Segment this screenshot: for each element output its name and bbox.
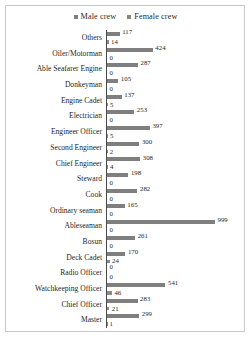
bar-rect [107,103,108,107]
category-label: Engine Cadet [0,93,106,109]
bar-value-label: 1 [110,321,113,328]
bar-value-label: 0 [110,211,113,218]
bar-group: 3084 [106,156,251,172]
bar-value-label: 137 [124,92,134,99]
bar-rect [107,220,215,224]
bar-value-label: 2 [110,149,113,156]
bar-male: 105 [107,77,251,85]
chart-row: Engine Cadet1375 [0,93,251,109]
bar-group: 9990 [106,218,251,234]
chart-row: Steward1980 [0,171,251,187]
chart-row: Radio Officer00 [0,265,251,281]
bar-value-label: 0 [110,86,113,93]
bar-value-label: 308 [143,155,153,162]
bar-value-label: 0 [110,227,113,234]
bar-female: 5 [107,132,251,140]
bar-rect [107,236,135,240]
bar-female: 21 [107,305,251,313]
bar-male: 424 [107,46,251,54]
bar-group: 54146 [106,281,251,297]
bar-value-label: 5 [110,133,113,140]
category-label: Ordinary seaman [0,203,106,219]
bar-value-label: 541 [168,280,178,287]
bar-rect [107,291,112,295]
bar-value-label: 0 [110,243,113,250]
bar-rect [107,204,125,208]
bar-group: 28321 [106,297,251,313]
bar-male: 137 [107,93,251,101]
category-label: Oiler/Motorman [0,46,106,62]
bar-value-label: 5 [110,102,113,109]
category-label: Ableseaman [0,218,106,234]
bar-female: 4 [107,163,251,171]
bar-value-label: 46 [114,290,121,297]
bar-rect [107,173,128,177]
category-label: Chief Engineer [0,156,106,172]
chart-row: Oiler/Motorman4240 [0,46,251,62]
bar-female: 46 [107,289,251,297]
chart-row: Cook2820 [0,187,251,203]
bar-group: 4240 [106,46,251,62]
bar-rect [107,95,122,99]
legend-item-female-crew: Female crew [127,12,177,21]
bar-value-label: 0 [110,55,113,62]
bar-male: 165 [107,203,251,211]
bar-male: 287 [107,61,251,69]
category-label: Engineer Officer [0,124,106,140]
bar-value-label: 165 [127,202,137,209]
chart-row: Bosun2610 [0,234,251,250]
bar-female: 0 [107,116,251,124]
bar-female: 0 [107,273,251,281]
bar-value-label: 397 [152,123,162,130]
bar-rect [107,110,134,114]
category-label: Others [0,30,106,46]
bar-rect [107,134,108,138]
bar-rect [107,299,138,303]
bar-value-label: 283 [140,296,150,303]
bar-rect [107,307,109,311]
bar-value-label: 117 [122,29,132,36]
category-label: Electrician [0,108,106,124]
bar-rect [107,252,125,256]
bar-rect [107,142,139,146]
bar-female: 14 [107,38,251,46]
bar-group: 3002 [106,140,251,156]
bar-female: 0 [107,179,251,187]
bar-rect [107,157,140,161]
chart-legend: Male crew Female crew [0,12,251,21]
bar-value-label: 299 [142,311,152,318]
bar-value-label: 0 [110,196,113,203]
bar-rect [107,283,165,287]
bar-group: 1980 [106,171,251,187]
category-label: Second Engineer [0,140,106,156]
chart-plot-area: Others11714Oiler/Motorman4240Able Seafar… [0,30,251,328]
chart-row: Second Engineer3002 [0,140,251,156]
bar-female: 24 [107,257,251,265]
bar-female: 0 [107,210,251,218]
chart-row: Master2991 [0,312,251,328]
category-label: Master [0,312,106,328]
chart-row: Watchkeeping Officer54146 [0,281,251,297]
bar-group: 00 [106,265,251,281]
chart-row: Electrician2530 [0,108,251,124]
category-label: Radio Officer [0,265,106,281]
bar-value-label: 0 [110,274,113,281]
bar-value-label: 198 [131,170,141,177]
bar-rect [107,126,150,130]
chart-row: Deck Cadet17024 [0,250,251,266]
chart-row: Ableseaman9990 [0,218,251,234]
bar-female: 0 [107,226,251,234]
bar-value-label: 253 [137,107,147,114]
bar-value-label: 4 [110,164,113,171]
bar-group: 2530 [106,108,251,124]
bar-value-label: 261 [138,233,148,240]
chart-row: Chief Officer28321 [0,297,251,313]
bar-female: 1 [107,320,251,328]
bar-male: 170 [107,250,251,258]
category-label: Able Seafarer Engine [0,61,106,77]
bar-group: 11714 [106,30,251,46]
legend-swatch-icon-female [127,15,131,19]
bar-value-label: 24 [112,258,119,265]
bar-rect [107,32,120,36]
bar-value-label: 424 [155,45,165,52]
